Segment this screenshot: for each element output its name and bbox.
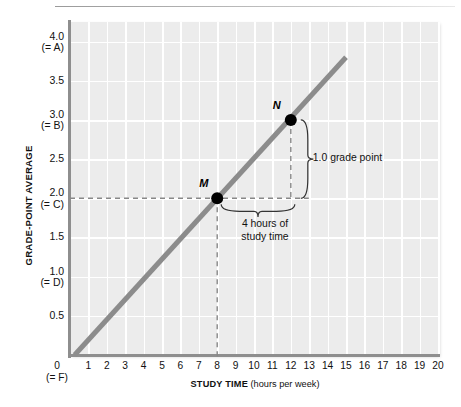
brace-rise xyxy=(301,120,314,198)
data-point-n xyxy=(285,114,297,126)
data-point-label-m: M xyxy=(199,177,208,189)
brace-run xyxy=(221,204,295,217)
data-point-m xyxy=(211,192,223,204)
chart-figure: GRADE-POINT AVERAGE 4.0(= A)3.53.0(= B)2… xyxy=(0,0,461,407)
annotation-run-line2: study time xyxy=(241,231,288,242)
data-point-label-n: N xyxy=(273,99,281,111)
annotation-run: 4 hours of study time xyxy=(225,218,305,243)
annotation-run-line1: 4 hours of xyxy=(242,218,288,229)
trend-line xyxy=(75,57,346,355)
chart-vector-overlay xyxy=(0,0,461,407)
annotation-rise: 1.0 grade point xyxy=(313,152,382,164)
